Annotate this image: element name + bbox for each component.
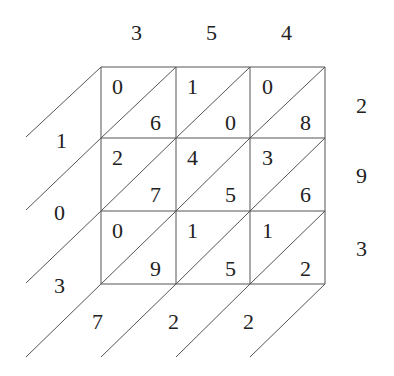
cell-tens: 0 xyxy=(112,74,123,99)
multiplier: 2 9 3 xyxy=(356,93,367,261)
cell-tens: 4 xyxy=(187,145,198,170)
result-digit: 3 xyxy=(54,273,65,298)
cell-tens: 1 xyxy=(187,74,198,99)
cell-tens: 0 xyxy=(262,74,273,99)
result-digit: 7 xyxy=(92,309,103,334)
result-bottom: 7 2 2 xyxy=(92,309,254,334)
cell-tens: 3 xyxy=(262,145,273,170)
cell-ones: 9 xyxy=(150,256,161,281)
cell-ones: 7 xyxy=(150,182,161,207)
cell-ones: 5 xyxy=(225,256,236,281)
cell-digits: 0 6 1 0 0 8 2 7 4 5 3 6 0 9 1 5 1 2 xyxy=(112,74,311,281)
cell-ones: 5 xyxy=(225,182,236,207)
multiplicand: 3 5 4 xyxy=(131,20,292,45)
multiplier-digit: 9 xyxy=(356,163,367,188)
cell-ones: 0 xyxy=(225,110,236,135)
lattice-diagram: 3 5 4 2 9 3 0 6 1 0 0 8 2 7 4 5 3 6 0 9 … xyxy=(0,0,394,376)
multiplicand-digit: 4 xyxy=(281,20,292,45)
result-digit: 2 xyxy=(243,309,254,334)
result-digit: 1 xyxy=(56,128,67,153)
multiplier-digit: 3 xyxy=(356,236,367,261)
multiplier-digit: 2 xyxy=(356,93,367,118)
cell-tens: 1 xyxy=(187,218,198,243)
multiplicand-digit: 5 xyxy=(206,20,217,45)
multiplicand-digit: 3 xyxy=(131,20,142,45)
cell-ones: 8 xyxy=(300,110,311,135)
result-left: 1 0 3 xyxy=(54,128,67,298)
result-digit: 2 xyxy=(168,309,179,334)
cell-tens: 1 xyxy=(262,218,273,243)
result-digit: 0 xyxy=(54,200,65,225)
cell-ones: 6 xyxy=(150,110,161,135)
cell-diagonals xyxy=(101,67,325,284)
cell-ones: 6 xyxy=(300,182,311,207)
cell-ones: 2 xyxy=(300,256,311,281)
cell-tens: 0 xyxy=(112,218,123,243)
cell-tens: 2 xyxy=(112,145,123,170)
